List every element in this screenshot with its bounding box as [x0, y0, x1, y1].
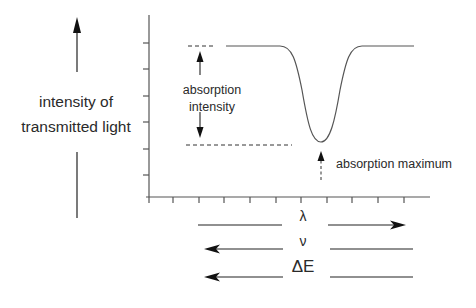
absorption-diagram — [0, 0, 476, 308]
delta-e-symbol: ΔE — [286, 257, 320, 277]
lambda-symbol: λ — [293, 208, 313, 224]
absorption-intensity-line1: absorption — [166, 82, 258, 99]
y-axis-label-line1: intensity of — [6, 89, 146, 114]
y-axis-label: intensity of transmitted light — [6, 89, 146, 139]
absorption-maximum-arrow — [318, 151, 325, 180]
y-axis-label-line2: transmitted light — [6, 114, 146, 139]
nu-symbol: ν — [293, 233, 313, 249]
x-axis — [146, 197, 430, 203]
absorption-maximum-label: absorption maximum — [336, 157, 452, 171]
absorption-intensity-line2: intensity — [166, 99, 258, 116]
absorption-intensity-label: absorption intensity — [166, 82, 258, 116]
